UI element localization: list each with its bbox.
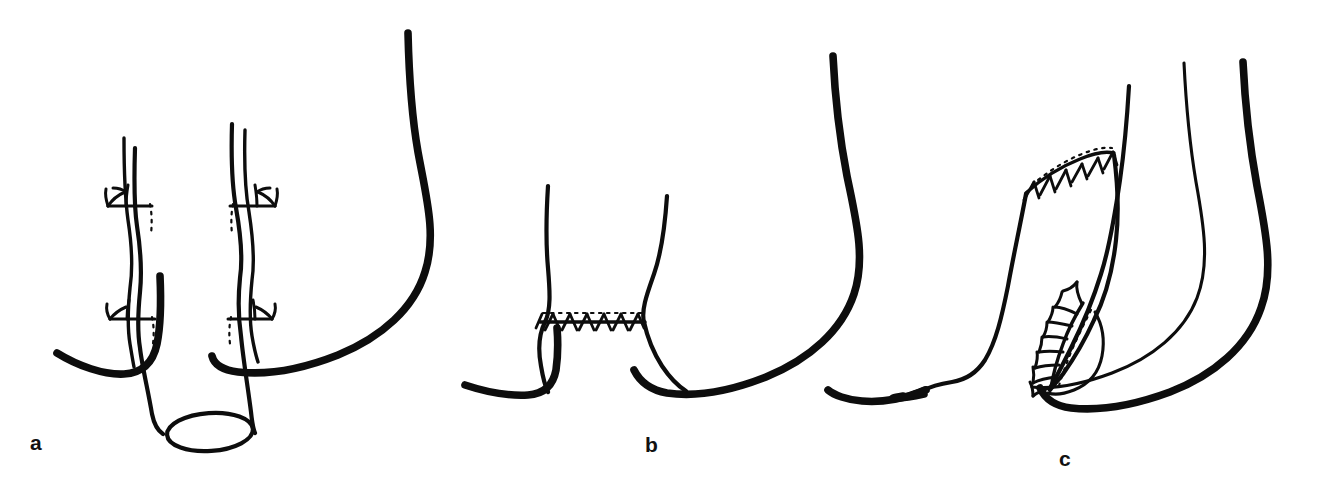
- panel-c-label: c: [1059, 447, 1071, 470]
- panel-a-label: a: [30, 431, 42, 454]
- surgical-figure: a: [0, 0, 1317, 490]
- figure-canvas: a: [0, 0, 1317, 490]
- panel-b-label: b: [645, 433, 658, 456]
